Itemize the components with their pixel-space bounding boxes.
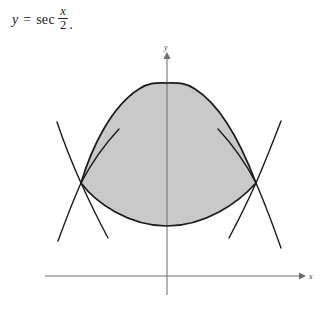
graph-canvas: x y (0, 0, 326, 309)
graph-figure: x y (0, 0, 326, 309)
shaded-region (81, 83, 256, 226)
x-axis-label: x (308, 272, 313, 281)
y-axis-label: y (163, 43, 168, 52)
y-axis-arrowhead (163, 52, 170, 59)
x-axis-arrowhead (299, 272, 306, 279)
